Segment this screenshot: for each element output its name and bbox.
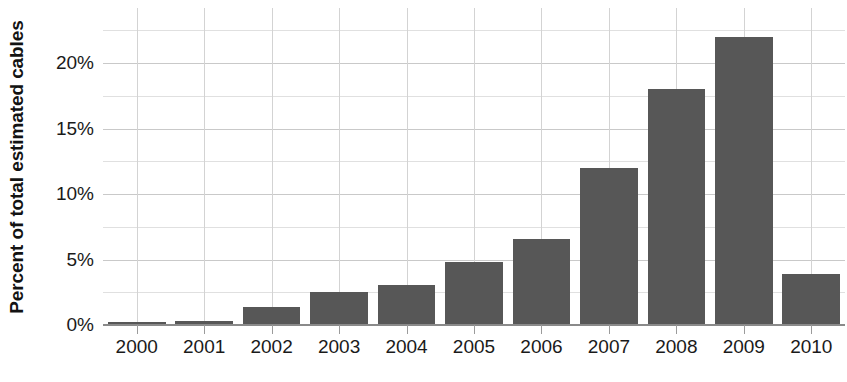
x-axis-tick (609, 325, 610, 334)
x-axis-tick (474, 325, 475, 334)
y-axis-title: Percent of total estimated cables (0, 0, 34, 334)
x-axis-tick (676, 325, 677, 334)
x-axis-tick (137, 325, 138, 334)
bar[interactable] (378, 285, 436, 325)
x-axis-tick (339, 325, 340, 334)
x-axis-tick (272, 325, 273, 334)
bar[interactable] (513, 239, 571, 325)
bar[interactable] (445, 262, 503, 325)
bar[interactable] (580, 168, 638, 325)
x-axis-tick-label: 2005 (453, 336, 495, 358)
x-axis-tick (541, 325, 542, 334)
y-axis-tick-label: 20% (56, 52, 94, 74)
y-axis-tick-label: 0% (67, 314, 94, 336)
x-axis-tick-label: 2001 (183, 336, 225, 358)
bar[interactable] (310, 292, 368, 325)
bar[interactable] (782, 274, 840, 325)
bar[interactable] (648, 89, 706, 325)
bars-layer (103, 8, 845, 325)
y-axis-tick-labels: 0%5%10%15%20% (36, 0, 98, 334)
x-axis-tick-label: 2007 (588, 336, 630, 358)
bar[interactable] (243, 307, 301, 325)
y-axis-tick-label: 5% (67, 249, 94, 271)
x-axis-tick (744, 325, 745, 334)
bar[interactable] (715, 37, 773, 325)
x-axis-tick-label: 2010 (790, 336, 832, 358)
y-axis-tick-label: 10% (56, 183, 94, 205)
x-axis-tick (811, 325, 812, 334)
x-axis-tick (204, 325, 205, 334)
x-axis-tick (407, 325, 408, 334)
x-axis-tick-label: 2006 (520, 336, 562, 358)
x-axis-ticks (103, 325, 845, 334)
x-axis-tick-labels: 2000200120022003200420052006200720082009… (103, 336, 845, 370)
x-axis-tick-label: 2000 (116, 336, 158, 358)
plot-area (103, 8, 845, 325)
x-axis-tick-label: 2008 (655, 336, 697, 358)
x-axis-tick-label: 2003 (318, 336, 360, 358)
y-axis-title-text: Percent of total estimated cables (6, 20, 28, 313)
x-axis-tick-label: 2002 (250, 336, 292, 358)
bar-chart: Percent of total estimated cables 0%5%10… (0, 0, 847, 382)
x-axis-tick-label: 2009 (723, 336, 765, 358)
y-axis-tick-label: 15% (56, 118, 94, 140)
x-axis-tick-label: 2004 (385, 336, 427, 358)
